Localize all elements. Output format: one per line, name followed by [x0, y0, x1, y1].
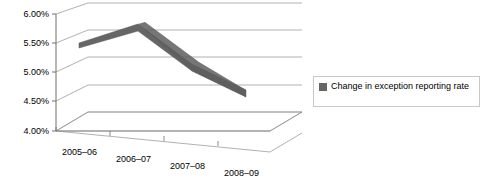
chart-legend: Change in exception reporting rate [313, 76, 480, 107]
y-tick-label-4.50: 4.50% [23, 96, 49, 106]
floor-plane [56, 112, 302, 131]
gridline-4.50 [56, 85, 302, 101]
x-tick-label-2008-09: 2008–09 [224, 168, 259, 178]
y-tick-label-6.00: 6.00% [23, 9, 49, 19]
chart-floor [56, 112, 302, 131]
y-tick-labels: 6.00% 5.50% 5.00% 4.50% 4.00% [23, 9, 49, 136]
gridline-6.00 [56, 3, 302, 14]
x-tick-label-2005-06: 2005–06 [62, 147, 97, 157]
y-tick-label-5.00: 5.00% [23, 67, 49, 77]
y-tick-label-5.50: 5.50% [23, 38, 49, 48]
y-axis [52, 14, 56, 131]
x-tick-labels: 2005–06 2006–07 2007–08 2008–09 [62, 147, 259, 178]
legend-label: Change in exception reporting rate [331, 81, 469, 92]
series-ribbon [79, 24, 246, 97]
gridlines [56, 3, 302, 131]
series-change-in-exception-reporting-rate [79, 22, 246, 97]
x-tick-label-2006-07: 2006–07 [116, 154, 151, 164]
legend-swatch-icon [319, 83, 327, 91]
floor-front-right-edge [270, 133, 302, 152]
series-ribbon-shadow [138, 22, 246, 97]
x-tick-label-2007-08: 2007–08 [170, 161, 205, 171]
chart-container: 6.00% 5.50% 5.00% 4.50% 4.00% 2005–06 20… [0, 0, 486, 182]
y-tick-label-4.00: 4.00% [23, 126, 49, 136]
